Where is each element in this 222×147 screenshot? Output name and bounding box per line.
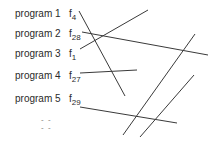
line-f27	[80, 70, 137, 73]
mapping-lines	[0, 0, 222, 147]
line-f29	[80, 107, 177, 123]
line-f4	[79, 11, 125, 96]
line-cross-2	[140, 75, 194, 137]
line-f1	[80, 10, 148, 49]
